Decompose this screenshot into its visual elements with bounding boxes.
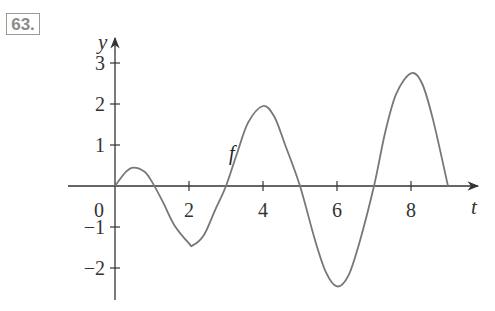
y-tick-label: 3: [95, 52, 105, 74]
x-axis-label: t: [471, 195, 478, 219]
y-axis-label: y: [96, 30, 108, 54]
origin-label: 0: [94, 199, 104, 221]
curve-label-f: f: [229, 142, 237, 165]
x-tick-label: 8: [406, 199, 416, 221]
y-tick-label: 1: [95, 134, 105, 156]
tick-marks: [110, 63, 411, 268]
y-tick-label: 2: [95, 93, 105, 115]
axis-labels: 2468−2−11230ty: [84, 30, 478, 279]
x-tick-label: 4: [258, 199, 268, 221]
curve-f: [115, 73, 448, 287]
x-tick-label: 2: [184, 199, 194, 221]
x-tick-label: 6: [332, 199, 342, 221]
function-graph: 2468−2−11230ty f: [0, 0, 495, 311]
y-tick-label: −2: [84, 257, 105, 279]
